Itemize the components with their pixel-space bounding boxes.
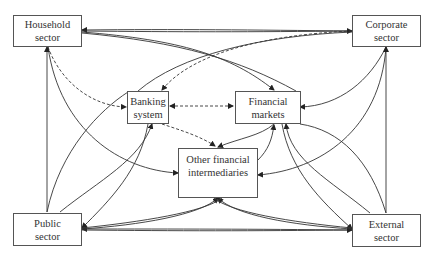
node-external-sector: External sector [352,214,421,247]
edge-external-public [82,229,352,230]
node-label: system [133,108,162,121]
edge-public-ofi-2 [82,198,222,228]
edge-public-banking [60,124,152,212]
node-public-sector: Public sector [13,213,82,246]
edge-public-ofi [82,198,218,229]
edge-public-household-curve [47,92,128,212]
node-other-financial-intermediaries: Other financial intermediaries [178,148,258,198]
node-label: External [369,218,405,231]
edge-corporate-markets [300,47,386,107]
edge-household-markets [82,32,274,90]
node-household-sector: Household sector [13,15,82,47]
node-label: Public [34,217,61,230]
node-label: markets [251,108,284,121]
node-label: Other financial [186,153,249,166]
edge-corporate-banking-solid [138,32,352,91]
edge-household-banking [48,47,126,107]
node-label: sector [374,31,399,44]
edge-markets-external [282,124,352,229]
edge-ofi-markets [258,125,274,160]
edge-corporate-banking [162,31,352,90]
node-label: Banking [130,95,166,108]
node-label: sector [374,231,399,244]
edge-banking-ofi [162,124,215,146]
node-corporate-sector: Corporate sector [352,15,421,47]
node-label: sector [35,230,60,243]
edge-public-external [82,230,352,231]
node-label: intermediaries [188,166,248,179]
node-banking-system: Banking system [127,91,169,124]
node-label: Corporate [366,18,408,31]
node-label: sector [35,31,60,44]
edge-banking-public [82,124,148,228]
edge-household-corporate [82,31,352,32]
edge-external-ofi-2 [214,198,352,228]
edge-corporate-household [82,30,352,31]
node-label: Household [25,18,71,31]
node-financial-markets: Financial markets [235,91,301,124]
edge-external-ofi [218,198,352,229]
node-label: Financial [248,95,287,108]
edge-markets-ofi [218,124,274,147]
